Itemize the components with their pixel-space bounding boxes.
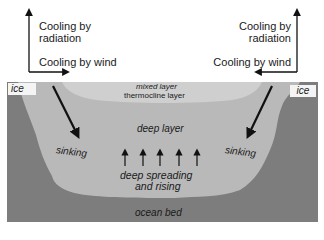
ice-label-right: ice <box>290 85 316 97</box>
deep-spreading-line2: and rising <box>135 180 181 192</box>
left-cooling-radiation-line2: radiation <box>39 32 81 44</box>
left-cooling-radiation-line1: Cooling by <box>39 20 91 32</box>
mixed-layer-label: mixed layer <box>136 82 177 91</box>
right-cooling-wind: Cooling by wind <box>213 56 291 68</box>
right-cooling-radiation-line1: Cooling by <box>239 20 291 32</box>
right-cooling-radiation-line2: radiation <box>249 32 291 44</box>
deep-layer-label: deep layer <box>137 123 184 134</box>
thermocline-layer-label: thermocline layer <box>124 91 185 100</box>
ocean-bed-label: ocean bed <box>135 207 182 218</box>
ice-label-left: ice <box>8 83 36 95</box>
left-cooling-wind: Cooling by wind <box>39 56 117 68</box>
